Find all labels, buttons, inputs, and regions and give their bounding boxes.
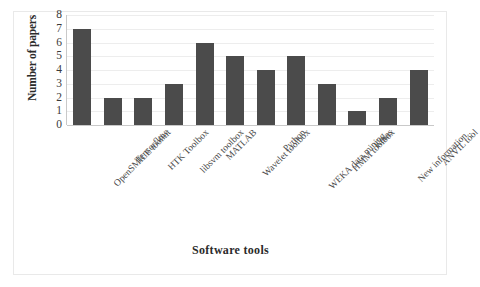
y-axis-tick-label: 6: [56, 37, 62, 49]
bar: [379, 98, 397, 126]
x-axis-title: Software tools: [0, 243, 461, 258]
y-axis-tick-labels: 012345678: [48, 15, 62, 125]
y-axis-tick-label: 2: [56, 92, 62, 104]
bar: [165, 84, 183, 125]
bar: [257, 70, 275, 125]
y-axis-title: Number of papers: [26, 0, 38, 117]
x-axis-tick-labels: OpenSMILE toolkitTensorflowHTK Toolboxli…: [66, 128, 434, 228]
bar: [348, 111, 366, 125]
bar: [226, 56, 244, 125]
bar: [104, 98, 122, 126]
y-axis-tick-label: 8: [56, 9, 62, 21]
bar: [134, 98, 152, 126]
y-axis-tick-label: 5: [56, 51, 62, 63]
y-axis-tick-label: 7: [56, 23, 62, 35]
bar: [318, 84, 336, 125]
y-axis-tick-label: 1: [56, 106, 62, 118]
bar: [410, 70, 428, 125]
y-axis-tick-label: 4: [56, 64, 62, 76]
y-axis-tick-label: 0: [56, 119, 62, 131]
x-axis-tick-label: Tensorflow: [134, 128, 171, 165]
bar: [196, 43, 214, 126]
axis-baseline: [67, 125, 434, 126]
bar: [287, 56, 305, 125]
plot-area: [66, 15, 434, 125]
y-axis-tick-label: 3: [56, 78, 62, 90]
bar-series: [67, 15, 434, 125]
bar: [73, 29, 91, 125]
